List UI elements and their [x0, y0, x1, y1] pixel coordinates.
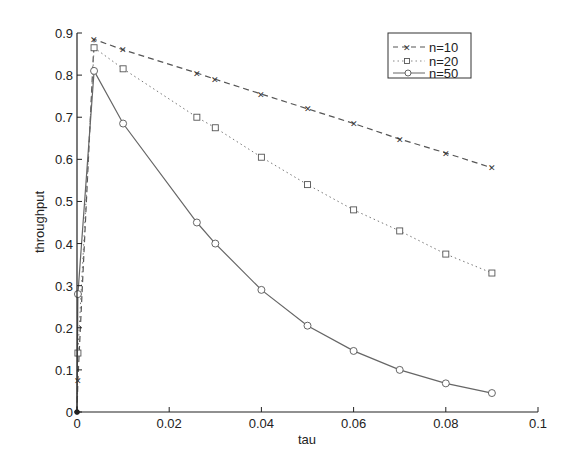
- y-axis-label: throughput: [32, 191, 47, 254]
- square-marker-icon: [489, 270, 495, 276]
- y-tick-label: 0.8: [55, 68, 73, 83]
- x-marker-icon: ✕: [488, 163, 496, 173]
- square-marker-icon: [212, 125, 218, 131]
- circle-marker-icon: [396, 366, 403, 373]
- square-marker-icon: [397, 228, 403, 234]
- x-tick-label: 0.02: [157, 416, 182, 431]
- y-tick-label: 0.4: [55, 237, 73, 252]
- x-marker-icon: ✕: [396, 135, 404, 145]
- square-marker-icon: [405, 59, 410, 64]
- circle-marker-icon: [120, 120, 127, 127]
- y-tick-label: 0.9: [55, 26, 73, 41]
- square-marker-icon: [305, 182, 311, 188]
- x-tick-label: 0.08: [433, 416, 458, 431]
- circle-marker-icon: [74, 291, 81, 298]
- y-tick-label: 0.5: [55, 194, 73, 209]
- square-marker-icon: [91, 45, 97, 51]
- circle-marker-icon: [91, 67, 98, 74]
- x-marker-icon: ✕: [403, 43, 411, 53]
- axes: 00.020.040.060.080.100.10.20.30.40.50.60…: [55, 26, 547, 431]
- throughput-chart: ✕✕✕✕✕✕✕✕✕✕✕ 00.020.040.060.080.100.10.20…: [0, 0, 578, 463]
- x-tick-label: 0.06: [341, 416, 366, 431]
- square-marker-icon: [258, 154, 264, 160]
- square-marker-icon: [443, 251, 449, 257]
- x-marker-icon: ✕: [74, 376, 82, 386]
- x-marker-icon: ✕: [193, 69, 201, 79]
- x-axis-label: tau: [298, 432, 316, 447]
- circle-marker-icon: [488, 390, 495, 397]
- legend-label: n=50: [429, 66, 458, 81]
- circle-marker-icon: [442, 380, 449, 387]
- series-line: [77, 71, 492, 412]
- circle-marker-icon: [405, 70, 411, 76]
- x-marker-icon: ✕: [442, 149, 450, 159]
- series-line: [77, 39, 492, 412]
- y-tick-label: 0: [66, 405, 73, 420]
- x-marker-icon: ✕: [90, 35, 98, 45]
- square-marker-icon: [194, 114, 200, 120]
- series-n10: ✕✕✕✕✕✕✕✕✕✕✕: [74, 35, 496, 415]
- x-marker-icon: ✕: [350, 119, 358, 129]
- series-line: [77, 48, 492, 412]
- circle-marker-icon: [212, 240, 219, 247]
- square-marker-icon: [351, 207, 357, 213]
- y-tick-label: 0.7: [55, 110, 73, 125]
- x-marker-icon: ✕: [211, 75, 219, 85]
- y-tick-label: 0.3: [55, 279, 73, 294]
- x-tick-label: 0.04: [249, 416, 274, 431]
- y-tick-label: 0.1: [55, 363, 73, 378]
- x-tick-label: 0.1: [529, 416, 547, 431]
- x-marker-icon: ✕: [257, 90, 265, 100]
- y-tick-label: 0.6: [55, 152, 73, 167]
- circle-marker-icon: [350, 347, 357, 354]
- circle-marker-icon: [304, 322, 311, 329]
- circle-marker-icon: [193, 219, 200, 226]
- legend-label: n=10: [429, 40, 458, 55]
- square-marker-icon: [120, 66, 126, 72]
- x-marker-icon: ✕: [119, 45, 127, 55]
- legend: ✕ n=10 n=20 n=50: [388, 33, 471, 81]
- series-n50: [74, 67, 495, 414]
- circle-marker-icon: [258, 286, 265, 293]
- y-tick-label: 0.2: [55, 321, 73, 336]
- x-tick-label: 0: [73, 416, 80, 431]
- series-n20: [75, 45, 495, 415]
- plot-area: ✕✕✕✕✕✕✕✕✕✕✕: [74, 35, 496, 415]
- x-marker-icon: ✕: [304, 104, 312, 114]
